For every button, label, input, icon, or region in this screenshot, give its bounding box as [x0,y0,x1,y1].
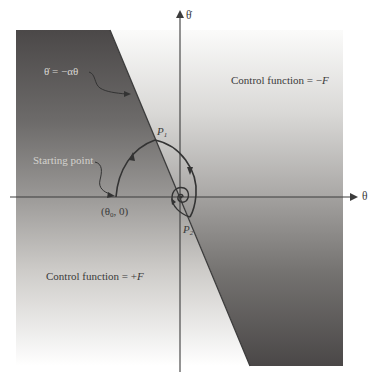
switching-line-label: θ̇ = −αθ [44,66,78,77]
theta-axis-label: θ [362,191,368,203]
region-label-minus-f: Control function = −F [231,75,329,86]
start-coordinate-label: (θ0, 0) [101,206,128,219]
region-label-plus-f: Control function = +F [46,271,144,282]
phase-plane-figure: θ̇ θ θ̇ = −αθ Control function = −F Cont… [0,0,377,380]
p1-label: P1 [157,126,167,139]
phase-plane-svg [0,0,377,380]
origin-marker [180,196,183,199]
p2-label: P2 [183,224,193,237]
starting-point-label: Starting point [33,155,93,166]
theta-dot-axis-label: θ̇ [186,10,192,22]
